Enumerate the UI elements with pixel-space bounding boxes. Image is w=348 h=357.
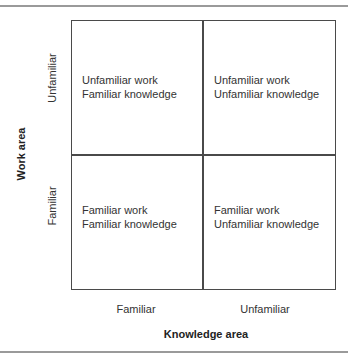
cell-bottom-left: Familiar work Familiar knowledge — [82, 204, 177, 231]
cell-line-1: Unfamiliar work — [82, 74, 177, 88]
column-label-unfamiliar: Unfamiliar — [235, 303, 295, 315]
row-label-unfamiliar: Unfamiliar — [46, 48, 58, 108]
cell-line-2: Familiar knowledge — [82, 218, 177, 232]
cell-top-left: Unfamiliar work Familiar knowledge — [82, 74, 177, 101]
cell-bottom-right: Familiar work Unfamiliar knowledge — [214, 204, 319, 231]
column-label-familiar: Familiar — [106, 303, 166, 315]
cell-top-right: Unfamiliar work Unfamiliar knowledge — [214, 74, 319, 101]
cell-line-1: Familiar work — [82, 204, 177, 218]
matrix-horizontal-divider — [71, 154, 336, 156]
bottom-rule — [0, 351, 348, 353]
cell-line-2: Unfamiliar knowledge — [214, 218, 319, 232]
row-label-familiar: Familiar — [46, 176, 58, 236]
cell-line-2: Familiar knowledge — [82, 88, 177, 102]
x-axis-title: Knowledge area — [156, 328, 256, 340]
cell-line-1: Unfamiliar work — [214, 74, 319, 88]
top-rule — [0, 5, 348, 7]
y-axis-title: Work area — [15, 124, 27, 184]
cell-line-2: Unfamiliar knowledge — [214, 88, 319, 102]
cell-line-1: Familiar work — [214, 204, 319, 218]
